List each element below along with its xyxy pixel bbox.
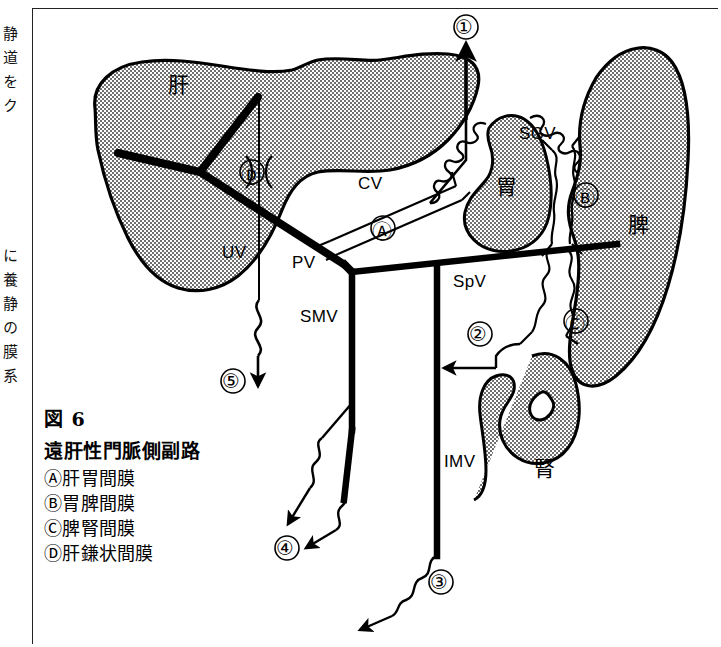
vessel-label-pv: PV [292,253,315,273]
figure-caption: 図 6 遠肝性門脈側副路 Ⓐ肝胃間膜 Ⓑ胃脾間膜 Ⓒ脾腎間膜 Ⓓ肝鎌状間膜 [44,404,304,566]
vessel-label-sgv: SGV [519,124,556,144]
vessel-label-cv: CV [358,174,382,194]
vessel-label-imv: IMV [444,452,475,472]
shunt-path-3 [360,556,437,630]
ligament-legend-list: Ⓐ肝胃間膜 Ⓑ胃脾間膜 Ⓒ脾腎間膜 Ⓓ肝鎌状間膜 [44,466,304,566]
organ-label-stomach: 胃 [496,170,517,200]
figure-number: 図 6 [44,404,304,431]
organ-label-kidney: 腎 [534,452,555,482]
vessel-label-spv: SpV [453,272,486,292]
shunt-path-2 [444,344,520,368]
shunt-path-5 [255,300,261,386]
organ-label-liver: 肝 [168,68,189,98]
vessel-label-smv: SMV [300,307,338,327]
vessel-label-uv: UV [222,243,246,263]
coronary-vein [318,172,470,260]
legend-item-c: Ⓒ脾腎間膜 [44,516,304,541]
legend-item-d: Ⓓ肝鎌状間膜 [44,541,304,566]
organ-liver [95,54,479,291]
figure-title: 遠肝性門脈側副路 [44,436,304,463]
organ-label-spleen: 脾 [628,208,649,238]
legend-item-a: Ⓐ肝胃間膜 [44,466,304,491]
splenorenal-varices [520,248,578,344]
figure-page: 静道をク に養静の膜系 [0,0,721,647]
organ-kidney [474,354,579,500]
legend-item-b: Ⓑ胃脾間膜 [44,491,304,516]
